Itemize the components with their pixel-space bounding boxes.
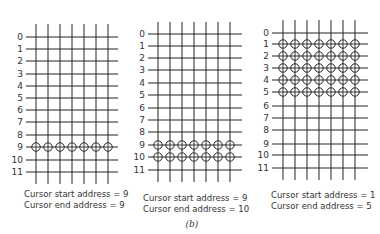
scan-line-label: 10 bbox=[134, 152, 146, 162]
scan-line-label: 1 bbox=[139, 41, 145, 51]
scan-line-label: 1 bbox=[263, 39, 269, 49]
scan-line-label: 4 bbox=[263, 75, 269, 85]
cursor-pixel-icon bbox=[190, 153, 198, 161]
cursor-pixel-icon bbox=[178, 141, 186, 149]
cursor-pixel-icon bbox=[339, 88, 347, 96]
cursor-pixel-icon bbox=[315, 76, 323, 84]
cursor-pixel-icon bbox=[351, 52, 359, 60]
cursor-pixel-icon bbox=[327, 76, 335, 84]
cursor-panel-1: 01234567891011Cursor start address = 9Cu… bbox=[12, 24, 129, 210]
cursor-pixel-icon bbox=[68, 143, 76, 151]
cursor-pixel-icon bbox=[351, 88, 359, 96]
scan-line-label: 11 bbox=[12, 167, 23, 177]
cursor-pixel-icon bbox=[327, 64, 335, 72]
scan-line-label: 9 bbox=[17, 142, 23, 152]
cursor-end-caption: Cursor end address = 5 bbox=[271, 201, 372, 211]
scan-line-label: 6 bbox=[263, 101, 269, 111]
cursor-pixel-icon bbox=[178, 153, 186, 161]
cursor-pixel-icon bbox=[279, 52, 287, 60]
cursor-pixel-icon bbox=[327, 52, 335, 60]
scan-line-label: 8 bbox=[139, 127, 145, 137]
scan-line-label: 3 bbox=[17, 69, 23, 79]
cursor-pixel-icon bbox=[315, 64, 323, 72]
cursor-end-caption: Cursor end address = 10 bbox=[143, 204, 249, 214]
cursor-panel-2: 01234567891011Cursor start address = 9Cu… bbox=[134, 22, 250, 214]
scan-line-label: 6 bbox=[17, 105, 23, 115]
cursor-pixel-icon bbox=[226, 141, 234, 149]
cursor-pixel-icon bbox=[351, 76, 359, 84]
scan-line-label: 2 bbox=[17, 56, 23, 66]
scan-line-label: 6 bbox=[139, 103, 145, 113]
scan-line-label: 0 bbox=[263, 28, 269, 38]
cursor-pixel-icon bbox=[303, 64, 311, 72]
cursor-pixel-icon bbox=[303, 88, 311, 96]
cursor-pixel-icon bbox=[327, 88, 335, 96]
scan-line-label: 9 bbox=[263, 139, 269, 149]
scan-line-label: 8 bbox=[17, 130, 23, 140]
scan-line-label: 11 bbox=[258, 163, 269, 173]
cursor-pixel-icon bbox=[303, 40, 311, 48]
cursor-pixel-icon bbox=[190, 141, 198, 149]
cursor-pixel-icon bbox=[80, 143, 88, 151]
cursor-pixel-icon bbox=[32, 143, 40, 151]
scan-line-label: 4 bbox=[17, 81, 23, 91]
cursor-start-caption: Cursor start address = 9 bbox=[24, 189, 128, 199]
cursor-pixel-icon bbox=[56, 143, 64, 151]
cursor-pixel-icon bbox=[214, 141, 222, 149]
cursor-panel-3: 01234567891011Cursor start address = 1Cu… bbox=[258, 20, 376, 211]
cursor-pixel-icon bbox=[291, 64, 299, 72]
cursor-pixel-icon bbox=[44, 143, 52, 151]
cursor-pixel-icon bbox=[226, 153, 234, 161]
scan-line-label: 5 bbox=[17, 93, 23, 103]
cursor-pixel-icon bbox=[279, 64, 287, 72]
cursor-pixel-icon bbox=[214, 153, 222, 161]
scan-line-label: 2 bbox=[263, 51, 269, 61]
figure-label: (b) bbox=[186, 219, 199, 229]
cursor-pixel-icon bbox=[104, 143, 112, 151]
cursor-pixel-icon bbox=[154, 141, 162, 149]
scan-line-label: 1 bbox=[17, 44, 23, 54]
cursor-pixel-icon bbox=[92, 143, 100, 151]
cursor-pixel-icon bbox=[303, 52, 311, 60]
cursor-start-caption: Cursor start address = 1 bbox=[271, 190, 375, 200]
scan-line-label: 9 bbox=[139, 140, 145, 150]
cursor-end-caption: Cursor end address = 9 bbox=[24, 200, 125, 210]
cursor-pixel-icon bbox=[202, 153, 210, 161]
scan-line-label: 7 bbox=[263, 113, 269, 123]
cursor-pixel-icon bbox=[351, 64, 359, 72]
cursor-pixel-icon bbox=[315, 88, 323, 96]
cursor-pixel-icon bbox=[279, 88, 287, 96]
scan-line-label: 3 bbox=[263, 63, 269, 73]
cursor-pixel-icon bbox=[291, 76, 299, 84]
scan-line-label: 7 bbox=[17, 117, 23, 127]
cursor-pixel-icon bbox=[166, 141, 174, 149]
scan-line-label: 7 bbox=[139, 115, 145, 125]
cursor-pixel-icon bbox=[291, 40, 299, 48]
cursor-pixel-icon bbox=[339, 64, 347, 72]
cursor-pixel-icon bbox=[327, 40, 335, 48]
scan-line-label: 0 bbox=[139, 29, 145, 39]
cursor-pixel-icon bbox=[315, 40, 323, 48]
cursor-pixel-icon bbox=[166, 153, 174, 161]
cursor-scanline-diagram: 01234567891011Cursor start address = 9Cu… bbox=[0, 0, 380, 234]
cursor-pixel-icon bbox=[339, 52, 347, 60]
scan-line-label: 10 bbox=[12, 155, 24, 165]
scan-line-label: 0 bbox=[17, 32, 23, 42]
cursor-pixel-icon bbox=[303, 76, 311, 84]
cursor-pixel-icon bbox=[291, 52, 299, 60]
cursor-pixel-icon bbox=[351, 40, 359, 48]
cursor-pixel-icon bbox=[279, 40, 287, 48]
scan-line-label: 3 bbox=[139, 65, 145, 75]
cursor-pixel-icon bbox=[279, 76, 287, 84]
cursor-pixel-icon bbox=[315, 52, 323, 60]
scan-line-label: 5 bbox=[139, 90, 145, 100]
cursor-pixel-icon bbox=[291, 88, 299, 96]
cursor-pixel-icon bbox=[202, 141, 210, 149]
scan-line-label: 2 bbox=[139, 53, 145, 63]
cursor-pixel-icon bbox=[339, 76, 347, 84]
cursor-pixel-icon bbox=[154, 153, 162, 161]
scan-line-label: 5 bbox=[263, 87, 269, 97]
scan-line-label: 4 bbox=[139, 78, 145, 88]
cursor-start-caption: Cursor start address = 9 bbox=[143, 193, 247, 203]
scan-line-label: 11 bbox=[134, 165, 145, 175]
